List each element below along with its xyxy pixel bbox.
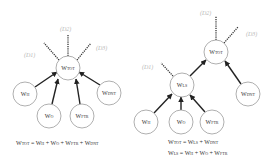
node-w-ls: WLS [170, 73, 194, 97]
right-equation-1: WTOT = WLS + WDNT [168, 139, 218, 145]
node-w-o: WO [37, 104, 61, 128]
dashed-edge-d1 [44, 43, 59, 60]
svg-text:WLS: WLS [177, 82, 187, 88]
node-w-h: WH [13, 82, 37, 106]
dashed-edge-d3 [77, 43, 91, 60]
label-d3: (D3) [96, 45, 107, 52]
label-d1: (D1) [142, 64, 153, 71]
arrow-ftr-to-ls [190, 95, 205, 112]
dashed-edge-d3 [224, 27, 238, 43]
node-w-ftr: WFTR [70, 104, 94, 128]
svg-text:WFTR: WFTR [75, 113, 88, 119]
arrow-o-to-tot [52, 79, 58, 104]
svg-text:WH: WH [21, 91, 30, 97]
right-equation-2: WLS = WH + WO + WFTR [168, 150, 227, 156]
node-w-dnt: WDNT [97, 81, 121, 105]
svg-text:WH: WH [142, 119, 151, 125]
arrow-dnt-to-tot [225, 61, 241, 84]
node-w-h: WH [134, 110, 158, 134]
dashed-edge-d1 [161, 63, 173, 76]
label-d3: (D3) [246, 31, 257, 38]
svg-text:WO: WO [177, 119, 186, 125]
arrow-h-to-tot [35, 72, 57, 87]
label-d2: (D2) [60, 26, 71, 33]
svg-text:WDNT: WDNT [241, 91, 255, 97]
arrow-h-to-ls [154, 94, 172, 113]
svg-text:WTOT: WTOT [209, 49, 223, 55]
arrow-ftr-to-tot [76, 79, 80, 104]
label-d1: (D1) [24, 52, 35, 59]
left-diagram: (D2) (D1) (D3) WTOT WH WO WFTR WDNT [13, 26, 121, 128]
node-w-tot: WTOT [204, 40, 228, 64]
arrow-ls-to-tot [190, 60, 206, 76]
left-equation: WTOT = WH + WO + WFTR + WDNT [16, 140, 99, 146]
node-w-o: WO [169, 110, 193, 134]
svg-text:WTOT: WTOT [61, 65, 75, 71]
arrow-dnt-to-tot [79, 72, 100, 85]
label-d2: (D2) [200, 10, 211, 17]
node-w-tot: WTOT [56, 56, 80, 80]
svg-text:WFTR: WFTR [205, 119, 218, 125]
node-w-dnt: WDNT [236, 82, 260, 106]
svg-text:WDNT: WDNT [102, 90, 116, 96]
svg-text:WO: WO [45, 113, 54, 119]
right-diagram: (D2) (D3) (D1) WTOT WLS WDNT WH WO [134, 10, 260, 134]
node-w-ftr: WFTR [200, 110, 224, 134]
